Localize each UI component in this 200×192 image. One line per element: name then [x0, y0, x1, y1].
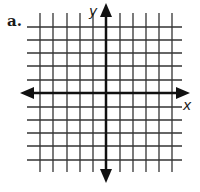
y-axis-down-arrow-icon [100, 169, 112, 183]
x-axis-left-arrow-icon [20, 87, 34, 99]
x-axis-label: x [182, 97, 192, 113]
coordinate-grid: y x [0, 0, 200, 192]
y-axis-label: y [88, 3, 98, 19]
y-axis-up-arrow-icon [100, 3, 112, 17]
